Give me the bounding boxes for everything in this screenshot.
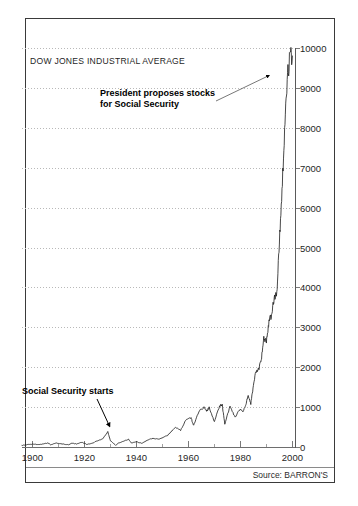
x-axis-label-1960: 1960 — [178, 452, 199, 463]
y-axis-label-1000: 1000 — [300, 402, 340, 413]
gridline-y-0 — [22, 447, 295, 448]
annotation-president-line1: President proposes stocks — [100, 88, 215, 99]
x-tick-1900 — [32, 441, 33, 447]
x-minor-tick-1950 — [162, 444, 163, 447]
annotation-president-proposes: President proposes stocks for Social Sec… — [100, 88, 215, 110]
gridline-y-6000 — [22, 208, 295, 209]
x-axis-label-1900: 1900 — [22, 452, 43, 463]
annotation-social-security-starts: Social Security starts — [22, 386, 114, 397]
x-axis-label-1980: 1980 — [230, 452, 251, 463]
x-axis-labels: 190019201940196019802000 — [22, 452, 295, 468]
source-label: Source: BARRON'S — [253, 470, 328, 480]
y-axis-label-8000: 8000 — [300, 122, 340, 133]
y-axis-labels: 0100020003000400050006000700080009000100… — [300, 48, 340, 447]
y-axis-label-4000: 4000 — [300, 282, 340, 293]
chart-figure: Talk About Timing! 010002000300040005000… — [0, 0, 358, 506]
y-axis-label-10000: 10000 — [300, 43, 340, 54]
x-minor-tick-1990 — [266, 444, 267, 447]
gridline-y-8000 — [22, 128, 295, 129]
x-minor-tick-1970 — [214, 444, 215, 447]
y-axis-label-3000: 3000 — [300, 322, 340, 333]
gridline-y-5000 — [22, 248, 295, 249]
x-tick-1920 — [84, 441, 85, 447]
y-axis-label-7000: 7000 — [300, 162, 340, 173]
chart-subtitle: DOW JONES INDUSTRIAL AVERAGE — [30, 56, 185, 66]
gridline-y-1000 — [22, 407, 295, 408]
gridline-y-2000 — [22, 367, 295, 368]
y-axis-label-2000: 2000 — [300, 362, 340, 373]
x-tick-1960 — [188, 441, 189, 447]
gridline-y-4000 — [22, 287, 295, 288]
annotation-president-line2: for Social Security — [100, 99, 215, 110]
y-axis-label-9000: 9000 — [300, 82, 340, 93]
x-tick-2000 — [292, 441, 293, 447]
gridline-y-3000 — [22, 327, 295, 328]
x-axis-label-2000: 2000 — [282, 452, 303, 463]
y-axis-label-6000: 6000 — [300, 202, 340, 213]
y-axis-label-0: 0 — [300, 442, 340, 453]
x-minor-tick-1930 — [110, 444, 111, 447]
y-axis-spine — [295, 48, 296, 448]
x-tick-1940 — [136, 441, 137, 447]
x-tick-1980 — [240, 441, 241, 447]
gridline-y-7000 — [22, 168, 295, 169]
x-axis-label-1920: 1920 — [74, 452, 95, 463]
gridline-y-10000 — [22, 48, 295, 49]
y-axis-label-5000: 5000 — [300, 242, 340, 253]
source-divider — [26, 467, 334, 468]
x-minor-tick-1910 — [58, 444, 59, 447]
x-axis-label-1940: 1940 — [126, 452, 147, 463]
